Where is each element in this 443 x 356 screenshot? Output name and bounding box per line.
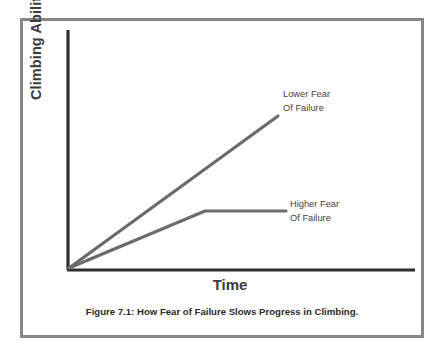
series-annotation-higher-fear-line1: Higher Fear [290, 197, 339, 211]
chart-plot-area [0, 0, 443, 356]
series-annotation-lower-fear-line2: Of Failure [283, 101, 330, 115]
series-annotation-lower-fear-line1: Lower Fear [283, 87, 330, 101]
figure-container: Climbing Ability Time Lower Fear Of Fail… [0, 0, 443, 356]
figure-caption: Figure 7.1: How Fear of Failure Slows Pr… [30, 306, 414, 317]
series-line-higher-fear [69, 211, 286, 268]
series-annotation-higher-fear-line2: Of Failure [290, 211, 339, 225]
series-line-lower-fear [69, 116, 278, 268]
series-annotation-lower-fear: Lower Fear Of Failure [283, 87, 330, 115]
y-axis-label: Climbing Ability [28, 0, 48, 100]
series-annotation-higher-fear: Higher Fear Of Failure [290, 197, 339, 225]
x-axis-label: Time [180, 276, 280, 293]
